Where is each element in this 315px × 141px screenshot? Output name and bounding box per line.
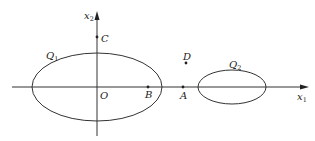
x2-axis-arrow-icon <box>95 11 100 20</box>
point-b-label: B <box>144 89 152 100</box>
x1-axis-label: x1 <box>297 91 307 104</box>
point-d <box>185 62 188 65</box>
point-d-label: D <box>182 51 191 62</box>
point-a-label: A <box>179 90 187 101</box>
x1-axis-arrow-icon <box>300 85 309 90</box>
x1-axis <box>12 85 309 90</box>
x2-axis <box>95 11 100 136</box>
diagram-canvas: x2 C Q1 O B A D Q2 x1 <box>0 0 315 141</box>
x2-axis-label: x2 <box>84 10 94 23</box>
point-c-label: C <box>101 33 109 44</box>
point-b <box>147 86 150 89</box>
region-q1-label: Q1 <box>46 50 58 63</box>
point-a <box>182 86 185 89</box>
origin-label: O <box>100 90 108 101</box>
point-c <box>96 36 99 39</box>
